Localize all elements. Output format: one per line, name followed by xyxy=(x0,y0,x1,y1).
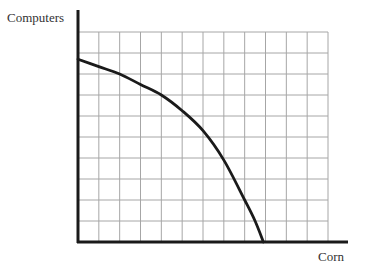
ppf-curve xyxy=(78,59,263,242)
grid xyxy=(78,32,328,242)
ppf-chart: Computers Corn xyxy=(0,0,375,272)
x-axis-label: Corn xyxy=(318,249,345,264)
y-axis-label: Computers xyxy=(7,10,64,25)
